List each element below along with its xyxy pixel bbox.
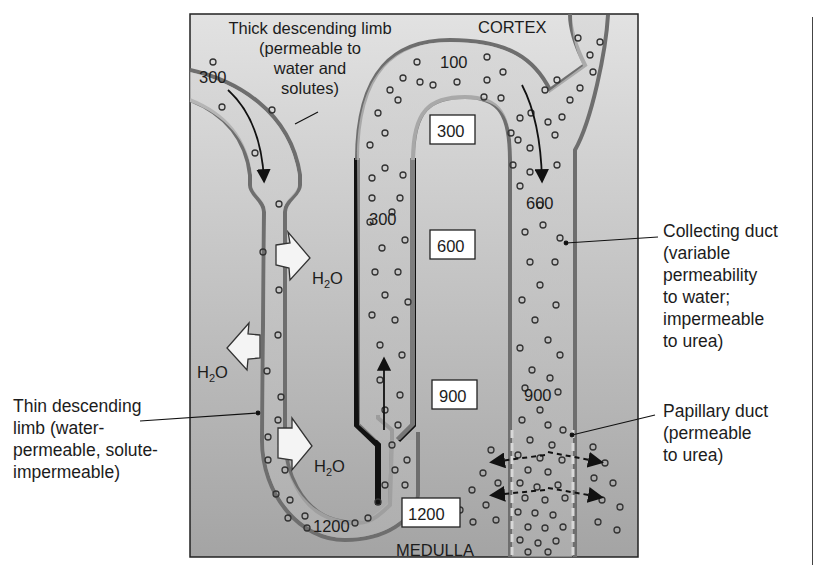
page-border-line (812, 17, 813, 565)
value-ascending-mid: 300 (369, 210, 397, 228)
value-thick-ascending-top: 100 (440, 53, 468, 71)
thin-descending-limb-label: Thin descending limb (water- permeable, … (13, 395, 193, 483)
value-descending-entry: 300 (199, 68, 227, 86)
thick-descending-limb-label: Thick descending limb (permeable to wate… (225, 18, 395, 98)
box-label-300: 300 (437, 122, 465, 140)
collecting-duct-label: Collecting duct (variable permeability t… (663, 220, 813, 352)
box-label-900: 900 (439, 387, 467, 405)
value-collecting-lower: 900 (524, 386, 552, 404)
papillary-duct-label: Papillary duct (permeable to urea) (663, 400, 813, 466)
box-label-1200: 1200 (408, 505, 445, 523)
value-loop-bottom: 1200 (313, 517, 350, 535)
cortex-label: CORTEX (478, 18, 546, 36)
medulla-label: MEDULLA (396, 541, 474, 559)
box-label-600: 600 (437, 237, 465, 255)
value-collecting-upper: 600 (526, 194, 554, 212)
